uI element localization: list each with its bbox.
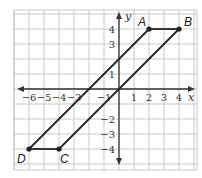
y-axis-up-arrow-icon [116, 12, 122, 19]
x-tick-label: 4 [176, 92, 182, 103]
coordinate-plane: xy −6−5−4−3−11234431−2−3−4 ABCD [0, 0, 202, 178]
y-tick-label: −2 [100, 114, 115, 125]
point-b [176, 26, 181, 31]
y-tick-label: 4 [109, 24, 115, 35]
x-tick-label: −5 [37, 92, 52, 103]
point-label-d: D [17, 152, 26, 166]
x-tick-label: −1 [97, 92, 112, 103]
point-a [146, 26, 151, 31]
x-tick-label: 2 [146, 92, 152, 103]
y-tick-label: 3 [109, 39, 115, 50]
y-tick-label: 1 [109, 69, 115, 80]
x-tick-label: −3 [67, 92, 82, 103]
y-tick-label: −4 [100, 144, 115, 155]
x-tick-label: −4 [52, 92, 67, 103]
x-tick-label: 3 [161, 92, 167, 103]
y-axis-label: y [124, 10, 132, 23]
point-label-b: B [184, 15, 192, 29]
y-tick-label: −3 [100, 129, 115, 140]
x-axis-label: x [188, 91, 195, 104]
x-tick-label: 1 [131, 92, 137, 103]
point-label-c: C [60, 152, 69, 166]
x-tick-label: −6 [22, 92, 37, 103]
point-label-a: A [137, 15, 146, 29]
point-c [56, 146, 61, 151]
point-d [26, 146, 31, 151]
